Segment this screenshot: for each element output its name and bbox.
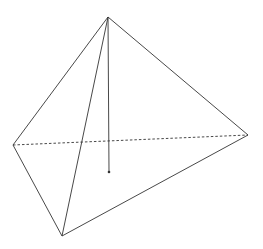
point-markers [108, 171, 111, 174]
edge-left-bottom [13, 145, 62, 236]
edge-apex-left [13, 17, 108, 145]
edge-apex-foot [108, 17, 109, 172]
edge-apex-right [108, 17, 248, 135]
point-foot [108, 171, 111, 174]
pyramid-diagram [0, 0, 263, 249]
edge-bottom-right [62, 135, 248, 236]
solid-edges [13, 17, 248, 236]
edge-apex-bottom [62, 17, 108, 236]
hidden-edges [13, 135, 248, 145]
edge-left-right [13, 135, 248, 145]
